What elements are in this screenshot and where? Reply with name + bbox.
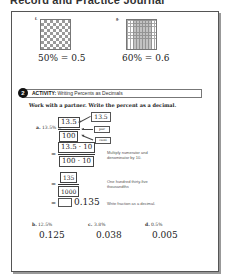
model-equation-g: 60% = 0.6: [122, 53, 170, 63]
activity-instruction: Work with a partner. Write the percent a…: [29, 102, 176, 108]
model-label-f: f.: [35, 16, 37, 21]
frame-shadow-right: [219, 13, 221, 274]
problem-percent-c: 3.8%: [94, 222, 105, 227]
problem-percent-d: 0.5%: [151, 222, 162, 227]
activity-heading: ACTIVITY: Writing Percents as Decimals: [32, 90, 123, 96]
equals-sign-step3: =: [51, 180, 56, 187]
checkerboard-grid-model: [40, 19, 71, 50]
numerator-box: 135: [60, 172, 77, 183]
model-label-g: g.: [116, 16, 119, 21]
frame-shadow-bottom: [13, 272, 221, 274]
problem-label-c: c.: [88, 222, 92, 227]
model-equation-f: 50% = 0.5: [38, 53, 86, 63]
fraction-step3: 135 1000: [58, 172, 79, 197]
example-label-a: a.: [36, 125, 40, 130]
step4-note: Write fraction as a decimal.: [107, 201, 177, 206]
denominator-box: 100 · 10: [59, 156, 94, 167]
denominator-box: 100: [59, 131, 78, 142]
step2-note: Multiply numerator and denominator by 10…: [107, 150, 157, 160]
fraction-bar: [58, 129, 80, 130]
problem-label-b: b.: [32, 222, 37, 227]
tag-cent: cent: [95, 137, 111, 144]
step3-note: One hundred thirty-five thousandths: [107, 179, 157, 189]
problem-percent-b: 12.5%: [38, 222, 52, 227]
activity-heading-text: Writing Percents as Decimals: [56, 90, 123, 96]
problem-answer-d: 0.005: [152, 230, 178, 240]
problem-answer-b: 0.125: [39, 230, 65, 240]
numerator-box: 13.5 · 10: [58, 142, 95, 153]
denominator-box: 1000: [58, 186, 79, 197]
step4-answer: 0.135: [74, 197, 100, 207]
activity-number-badge: 2: [18, 88, 28, 98]
tag-per: per: [94, 126, 110, 133]
page-title: Record and Practice Journal: [10, 0, 165, 6]
fraction-bar: [58, 184, 79, 185]
tag-number: 13.5: [91, 112, 111, 122]
fraction-bar: [58, 154, 95, 155]
problem-answer-c: 0.038: [96, 230, 122, 240]
problem-label-d: d.: [145, 222, 150, 227]
equals-sign-step2: =: [51, 150, 56, 157]
fraction-step2: 13.5 · 10 100 · 10: [58, 142, 95, 167]
numerator-box: 13.5: [58, 117, 80, 128]
equals-sign-step4: =: [51, 199, 56, 206]
answer-box: [58, 198, 72, 207]
activity-heading-label: ACTIVITY:: [32, 90, 56, 96]
arrow-to-per-tag: [82, 129, 93, 130]
shaded-columns-grid-model: [126, 19, 157, 50]
